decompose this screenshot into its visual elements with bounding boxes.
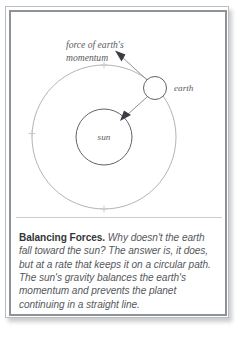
force-label-line1: force of earth's [66, 39, 124, 50]
force-label-line2: momentum [66, 52, 108, 63]
gravity-force-arrow [120, 97, 147, 121]
caption-text: Balancing Forces. Why doesn't the earth … [19, 231, 215, 311]
caption-divider [16, 217, 222, 218]
caption-body: Why doesn't the earth fall toward the su… [19, 232, 211, 309]
caption-lead: Balancing Forces. [19, 232, 105, 243]
earth-label: earth [174, 83, 194, 93]
figure-root: force of earth's momentum earth sun Bala… [0, 0, 240, 338]
orbit-diagram: force of earth's momentum earth sun [11, 12, 225, 217]
momentum-force-arrow [115, 51, 147, 81]
sun-label: sun [98, 132, 111, 142]
orbit-tick-marks [29, 62, 108, 213]
